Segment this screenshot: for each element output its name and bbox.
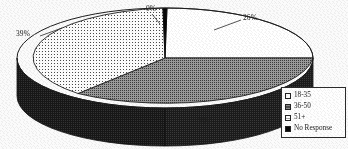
data-label-18-35: 26% <box>243 14 257 22</box>
pie-chart-figure: 0% 26% 39% 35% 18-35 36-50 51+ No Respon… <box>0 0 348 149</box>
legend-item-51plus: 51+ <box>285 112 343 123</box>
data-label-51plus: 39% <box>16 30 30 38</box>
chart-legend: 18-35 36-50 51+ No Response <box>281 87 346 138</box>
legend-item-36-50: 36-50 <box>285 101 343 112</box>
legend-item-18-35: 18-35 <box>285 90 343 101</box>
legend-swatch-no-response-icon <box>285 126 291 132</box>
legend-swatch-51plus-icon <box>285 115 291 121</box>
pie-top-slices <box>33 8 313 103</box>
legend-swatch-18-35-icon <box>285 93 291 99</box>
legend-label-36-50: 36-50 <box>294 103 311 110</box>
legend-label-18-35: 18-35 <box>294 92 311 99</box>
legend-label-no-response: No Response <box>294 125 332 132</box>
legend-label-51plus: 51+ <box>294 114 305 121</box>
data-label-36-50: 35% <box>198 118 212 126</box>
data-label-no-response: 0% <box>146 5 156 13</box>
legend-swatch-36-50-icon <box>285 104 291 110</box>
pie-slice-18-35 <box>165 8 313 58</box>
legend-item-no-response: No Response <box>285 123 343 134</box>
